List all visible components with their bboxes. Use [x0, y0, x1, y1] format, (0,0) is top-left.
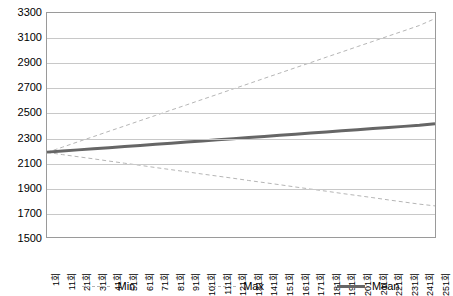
y-axis-tick-label: 1500 — [0, 233, 42, 244]
x-axis-tick: 101회 — [197, 240, 207, 274]
x-axis-tick: 61회 — [135, 240, 145, 274]
x-axis-tick: 201회 — [353, 240, 363, 274]
x-axis-tick: 1회 — [41, 240, 51, 274]
legend-swatch-max — [208, 282, 236, 291]
chart-legend: MinMaxMean — [46, 278, 436, 294]
x-axis-tick: 71회 — [150, 240, 160, 274]
legend-swatch-mean — [337, 282, 365, 291]
x-axis: 1회11회21회31회41회51회61회71회81회91회101회111회121… — [46, 240, 436, 274]
y-axis-tick-label: 2900 — [0, 57, 42, 68]
legend-swatch-min — [82, 282, 110, 291]
line-chart: 3300310029002700250023002100190017001500… — [0, 0, 453, 296]
x-axis-tick: 231회 — [400, 240, 410, 274]
x-axis-tick: 211회 — [369, 240, 379, 274]
legend-item-max[interactable]: Max — [208, 281, 264, 292]
x-axis-tick: 141회 — [259, 240, 269, 274]
x-axis-tick: 91회 — [181, 240, 191, 274]
x-axis-tick: 181회 — [322, 240, 332, 274]
legend-label-max: Max — [243, 281, 264, 292]
y-axis: 3300310029002700250023002100190017001500 — [0, 0, 42, 250]
x-axis-tick: 111회 — [213, 240, 223, 274]
gridline — [47, 113, 435, 114]
gridline — [47, 164, 435, 165]
x-axis-tick: 191회 — [337, 240, 347, 274]
y-axis-tick-label: 2300 — [0, 133, 42, 144]
gridline — [47, 189, 435, 190]
x-axis-tick: 131회 — [244, 240, 254, 274]
x-axis-tick: 161회 — [291, 240, 301, 274]
x-axis-tick: 151회 — [275, 240, 285, 274]
x-axis-tick: 81회 — [166, 240, 176, 274]
x-axis-tick-label: 251회 — [441, 273, 451, 296]
legend-label-mean: Mean — [372, 281, 400, 292]
y-axis-tick-label: 2100 — [0, 158, 42, 169]
x-axis-tick: 21회 — [72, 240, 82, 274]
gridline — [47, 38, 435, 39]
y-axis-tick-label: 3300 — [0, 7, 42, 18]
x-axis-tick: 221회 — [384, 240, 394, 274]
legend-item-mean[interactable]: Mean — [337, 281, 400, 292]
series-lines — [47, 13, 435, 237]
x-axis-tick: 171회 — [306, 240, 316, 274]
x-axis-tick: 11회 — [57, 240, 67, 274]
x-axis-tick: 41회 — [103, 240, 113, 274]
y-axis-tick-label: 3100 — [0, 32, 42, 43]
y-axis-tick-label: 1900 — [0, 183, 42, 194]
x-axis-tick: 251회 — [431, 240, 441, 274]
x-axis-tick: 121회 — [228, 240, 238, 274]
gridline — [47, 139, 435, 140]
x-axis-tick: 31회 — [88, 240, 98, 274]
gridline — [47, 63, 435, 64]
x-axis-tick: 51회 — [119, 240, 129, 274]
y-axis-tick-label: 2700 — [0, 82, 42, 93]
legend-item-min[interactable]: Min — [82, 281, 135, 292]
y-axis-tick-label: 1700 — [0, 208, 42, 219]
legend-label-min: Min — [117, 281, 135, 292]
x-axis-tick: 241회 — [415, 240, 425, 274]
gridline — [47, 88, 435, 89]
y-axis-tick-label: 2500 — [0, 107, 42, 118]
gridline — [47, 214, 435, 215]
series-line-min — [47, 152, 435, 206]
plot-area — [46, 12, 436, 238]
